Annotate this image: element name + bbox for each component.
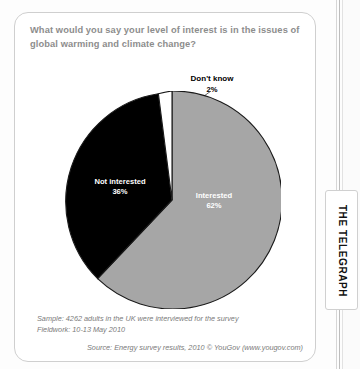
pie-label-interested: Interested 62% [179,191,249,211]
page-edge-line-1 [336,0,337,369]
telegraph-masthead-text: THE TELEGRAPH [326,191,359,311]
page-edge-line-3 [342,0,343,369]
footnote-fieldwork: Fieldwork: 10-13 May 2010 [37,324,297,335]
pie-chart: Not interested 36% Interested 62% [63,91,281,309]
chart-card: What would you say your level of interes… [14,12,316,362]
dont-know-label: Don't know [167,73,257,84]
chart-question-title: What would you say your level of interes… [30,23,305,51]
chart-source: Source: Energy survey results, 2010 © Yo… [37,343,303,352]
footnote-sample: Sample: 4262 adults in the UK were inter… [37,313,297,324]
chart-footnote: Sample: 4262 adults in the UK were inter… [37,313,297,335]
telegraph-masthead-panel: THE TELEGRAPH [325,190,358,310]
page-edge-line-2 [339,0,340,369]
pie-label-not-interested: Not interested 36% [85,177,155,197]
page-background-right [343,0,360,369]
